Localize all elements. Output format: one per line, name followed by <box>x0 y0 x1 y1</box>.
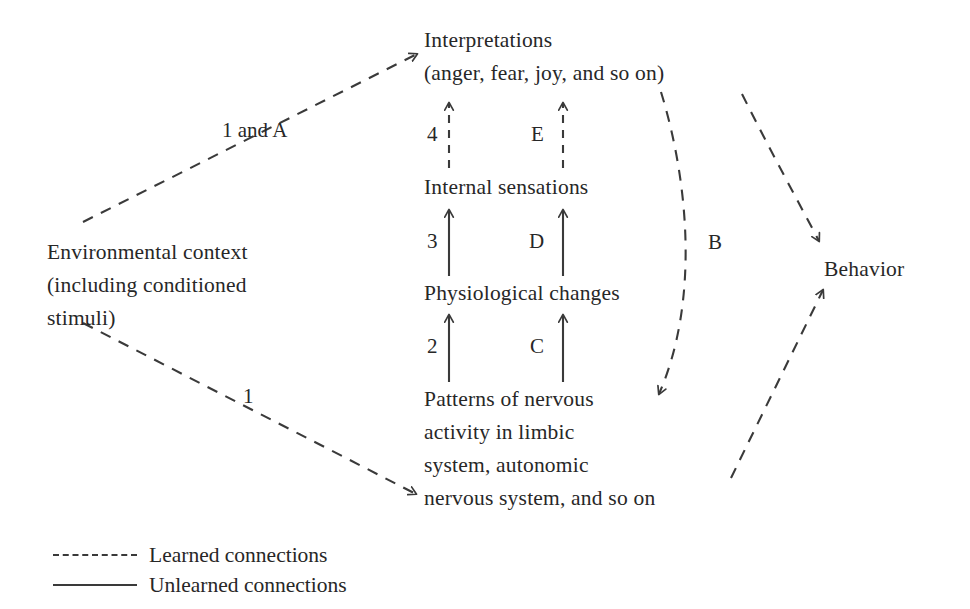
edge-interpretations-to-behavior <box>742 94 819 241</box>
node-internal-sensations: Internal sensations <box>424 171 724 204</box>
legend: Learned connections Unlearned connection… <box>53 540 347 600</box>
legend-label-unlearned: Unlearned connections <box>149 570 347 600</box>
solid-line-icon <box>53 584 137 586</box>
legend-row-unlearned: Unlearned connections <box>53 570 347 600</box>
node-behavior: Behavior <box>824 253 964 286</box>
edge-label-four: 4 <box>427 124 438 145</box>
edge-label-c: C <box>530 336 544 357</box>
edge-patterns-to-behavior <box>731 290 823 478</box>
node-patterns-of-nervous-activity: Patterns of nervous activity in limbic s… <box>424 383 704 515</box>
edge-label-d: D <box>529 231 544 252</box>
edge-context-to-patterns <box>83 323 416 494</box>
legend-label-learned: Learned connections <box>149 540 328 570</box>
edge-label-three: 3 <box>427 231 438 252</box>
edge-label-e: E <box>531 124 544 145</box>
diagram-canvas: Interpretations (anger, fear, joy, and s… <box>0 0 970 609</box>
edge-interpretations-to-patterns-b <box>659 92 686 394</box>
node-environmental-context: Environmental context (including conditi… <box>47 236 347 335</box>
edge-label-one: 1 <box>243 386 254 407</box>
dashed-line-icon <box>53 554 137 556</box>
node-interpretations: Interpretations (anger, fear, joy, and s… <box>424 24 774 90</box>
legend-row-learned: Learned connections <box>53 540 347 570</box>
node-physiological-changes: Physiological changes <box>424 277 724 310</box>
edge-label-one-and-a: 1 and A <box>222 120 287 141</box>
edge-label-two: 2 <box>427 336 438 357</box>
edge-label-b: B <box>708 232 722 253</box>
